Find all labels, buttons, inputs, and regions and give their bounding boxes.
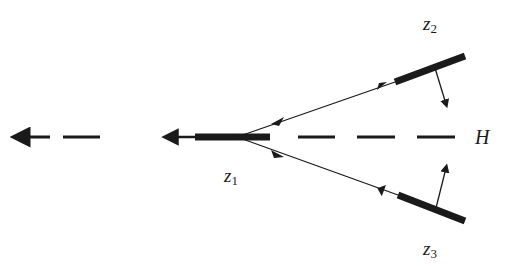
label-z1: z1 (224, 166, 238, 187)
thick-segment-z2 (395, 56, 465, 82)
normal-arrow-z2 (435, 68, 446, 104)
feynman-diagram (0, 0, 510, 270)
fermion-lower (237, 137, 398, 196)
label-z3: z3 (423, 239, 437, 260)
thick-segment-z3 (398, 195, 465, 221)
arrow-inward-icon (377, 82, 387, 90)
label-H: H (475, 127, 489, 147)
normal-arrow-z3 (436, 168, 446, 208)
fermion-upper (237, 82, 395, 137)
label-z2: z2 (423, 14, 437, 35)
